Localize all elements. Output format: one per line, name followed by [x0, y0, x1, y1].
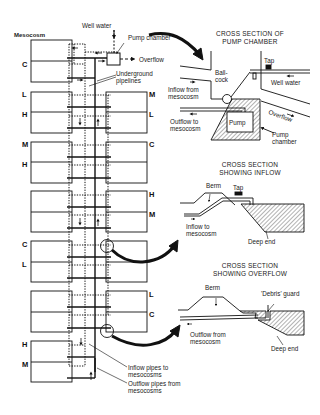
treatment-code: C [22, 240, 27, 249]
ball-cock-label-1: Ball- [215, 69, 228, 76]
treatment-code: L [149, 290, 154, 299]
mesocosm-pair-row6-left [31, 291, 72, 332]
inflow-section-title: CROSS SECTION SHOWING INFLOW [200, 161, 300, 177]
inflow-pipes-label-2: mesocosms [128, 371, 162, 378]
pump-chamber-label: Pump chamber [128, 34, 171, 41]
mesocosm-pair-row4-right [106, 191, 147, 232]
mesocosm-pair-row2-left [31, 92, 72, 133]
inflow-section-title-line1: CROSS SECTION [200, 161, 300, 169]
treatment-code: M [149, 210, 155, 219]
tap-label: Tap [264, 57, 274, 64]
inflow-pipes-label-1: Inflow pipes to [128, 364, 168, 371]
mesocosm-pair-row4-left [31, 191, 72, 232]
mesocosm-heading: Mesocosm [14, 32, 45, 39]
pump-chamber-box [107, 53, 120, 65]
treatment-code: C [22, 60, 27, 69]
pump-section-title-line1: CROSS SECTION OF [200, 30, 300, 38]
treatment-code: H [149, 190, 154, 199]
flow-arrows [80, 118, 127, 383]
treatment-code: C [149, 310, 154, 319]
outflow-from-label-1: Outflow from [190, 331, 226, 338]
mesocosm-pair-row7-left [31, 341, 72, 382]
treatment-code: M [22, 140, 28, 149]
overflow-section-title-line1: CROSS SECTION [200, 262, 300, 270]
outflow-to-label-2: mesocosm [170, 125, 200, 132]
pump-section-title: CROSS SECTION OF PUMP CHAMBER [200, 30, 300, 46]
inflow-section-title-line2: SHOWING INFLOW [200, 169, 300, 177]
overflow-section-title-line2: SHOWING OVERFLOW [200, 270, 300, 278]
mesocosm-pair-row5-left [31, 241, 72, 282]
mesocosm-pair-row2-right [106, 92, 147, 133]
well-water-label: Well water [82, 22, 111, 29]
pump-chamber-section-label-1: Pump [272, 131, 288, 138]
treatment-code: H [22, 160, 27, 169]
ball-cock-label-2: cock [215, 76, 228, 83]
inflow-to-label-2: mesocosm [186, 230, 216, 237]
underground-pipelines-label-2: pipelines [116, 77, 141, 84]
mesocosm-pair-row3-left [31, 142, 72, 183]
treatment-code: H [22, 340, 27, 349]
pump-chamber-section-label-2: chamber [272, 138, 297, 145]
deep-end-overflow-label: Deep end [271, 345, 298, 352]
berm-label: Berm [206, 182, 221, 189]
pump-label: Pump [229, 119, 245, 126]
treatment-code: L [149, 110, 154, 119]
mesocosm-grid [31, 40, 147, 382]
treatment-code: H [22, 110, 27, 119]
deep-end-inflow-label: Deep end [248, 238, 275, 245]
overflow-label: Overflow [139, 56, 164, 63]
debris-guard-label: 'Debris' guard [261, 290, 299, 297]
outflow-from-label-2: mesocosm [190, 338, 220, 345]
treatment-code: M [22, 360, 28, 369]
mesocosm-pair-row6-right [106, 291, 147, 332]
pump-section-title-line2: PUMP CHAMBER [200, 38, 300, 46]
outflow-to-label-1: Outflow to [170, 118, 198, 125]
inflow-to-label-1: Inflow to [186, 223, 209, 230]
overflow-detail-marker [101, 325, 114, 338]
tap-inflow-label: Tap [233, 184, 243, 191]
outflow-pipes-label-2: mesocosms [128, 387, 162, 394]
inflow-from-label-1: Inflow from [168, 86, 199, 93]
inflow-from-label-2: mesocosm [168, 93, 198, 100]
underground-pipelines-label-1: Underground [116, 70, 153, 77]
berm-overflow-label: Berm [205, 284, 220, 291]
treatment-code: L [22, 260, 27, 269]
outflow-pipes [67, 58, 111, 378]
treatment-code: M [149, 90, 155, 99]
treatment-code: L [22, 90, 27, 99]
overflow-section-title: CROSS SECTION SHOWING OVERFLOW [200, 262, 300, 278]
treatment-code: C [149, 140, 154, 149]
mesocosm-pair-row3-right [106, 142, 147, 183]
outflow-pipes-label-1: Outflow pipes from [128, 380, 181, 387]
well-water-section-label: Well water [271, 79, 300, 86]
